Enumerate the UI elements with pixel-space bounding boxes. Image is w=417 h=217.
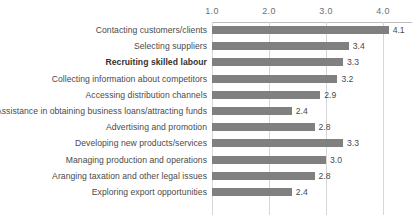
category-label: Aranging taxation and other legal issues (52, 171, 207, 181)
bar-value-label: 3.0 (330, 155, 342, 165)
category-label: Selecting suppliers (134, 41, 207, 51)
bar (212, 42, 349, 50)
bar-group: 3.0 (212, 156, 342, 164)
bar-value-label: 3.3 (347, 138, 359, 148)
table-row: Recruiting skilled labour 3.3 (0, 54, 417, 70)
bar (212, 58, 343, 66)
category-label: Accessing distribution channels (86, 90, 207, 100)
table-row: Accessing distribution channels 2.9 (0, 87, 417, 103)
category-label: Developing new products/services (75, 138, 207, 148)
bar (212, 123, 315, 131)
bar-group: 2.4 (212, 107, 308, 115)
bar-value-label: 2.8 (319, 171, 331, 181)
bar-value-label: 2.8 (319, 122, 331, 132)
x-tick-label-3: 3.0 (319, 6, 332, 16)
table-row: Collecting information about competitors… (0, 71, 417, 87)
bar-chart: 1.0 2.0 3.0 4.0 Contacting customers/cli… (0, 0, 417, 217)
x-tick-label-1: 1.0 (205, 6, 218, 16)
bar (212, 91, 320, 99)
bar-value-label: 3.3 (347, 57, 359, 67)
table-row: Developing new products/services 3.3 (0, 135, 417, 151)
bar (212, 107, 292, 115)
table-row: Advertising and promotion 2.8 (0, 119, 417, 135)
category-label: Exploring export opportunities (92, 187, 207, 197)
category-label: Recruiting skilled labour (105, 57, 207, 67)
bar-group: 3.3 (212, 139, 359, 147)
bar-value-label: 2.4 (296, 187, 308, 197)
bar (212, 156, 326, 164)
table-row: Exploring export opportunities 2.4 (0, 184, 417, 200)
category-label: Advertising and promotion (106, 122, 207, 132)
bar (212, 188, 292, 196)
x-tick-label-4: 4.0 (376, 6, 389, 16)
bar-group: 2.9 (212, 91, 336, 99)
category-label: Collecting information about competitors (52, 74, 207, 84)
bar-value-label: 2.9 (324, 90, 336, 100)
table-row: Managing production and operations 3.0 (0, 152, 417, 168)
bar-value-label: 4.1 (393, 25, 405, 35)
category-label: Assistance in obtaining business loans/a… (0, 106, 207, 116)
category-label: Contacting customers/clients (96, 25, 207, 35)
bar (212, 139, 343, 147)
bar (212, 172, 315, 180)
bar (212, 75, 337, 83)
bar-rows: Contacting customers/clients 4.1 Selecti… (0, 22, 417, 200)
bar-value-label: 3.4 (353, 41, 365, 51)
bar-value-label: 2.4 (296, 106, 308, 116)
x-tick-label-2: 2.0 (262, 6, 275, 16)
table-row: Contacting customers/clients 4.1 (0, 22, 417, 38)
table-row: Assistance in obtaining business loans/a… (0, 103, 417, 119)
bar-value-label: 3.2 (341, 74, 353, 84)
bar-group: 2.4 (212, 188, 308, 196)
bar-group: 3.2 (212, 75, 353, 83)
bar-group: 3.4 (212, 42, 365, 50)
bar-group: 2.8 (212, 172, 331, 180)
category-label: Managing production and operations (66, 155, 207, 165)
table-row: Selecting suppliers 3.4 (0, 38, 417, 54)
bar-group: 2.8 (212, 123, 331, 131)
table-row: Aranging taxation and other legal issues… (0, 168, 417, 184)
bar-group: 4.1 (212, 26, 405, 34)
bar-group: 3.3 (212, 58, 359, 66)
bar (212, 26, 389, 34)
